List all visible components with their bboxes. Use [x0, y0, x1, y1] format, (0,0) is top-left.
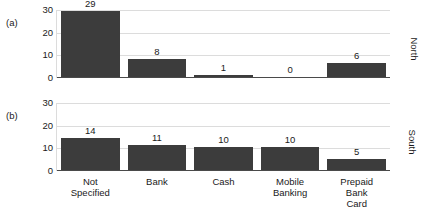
bar-group: 29	[57, 9, 124, 77]
bar-value-label: 5	[323, 147, 390, 157]
region-label-south: South	[408, 130, 418, 155]
x-category-label: NotSpecified	[57, 176, 124, 198]
y-tick-label: 0	[48, 166, 53, 176]
x-category-label-line: Banking	[257, 187, 324, 198]
bar	[61, 138, 120, 170]
bar-value-label: 11	[124, 133, 191, 143]
bar-group: 8	[124, 9, 191, 77]
y-axis-a: 0102030	[22, 10, 56, 78]
panel-tag-b: (b)	[6, 111, 18, 121]
x-category-label-line: Bank	[323, 187, 390, 198]
bar	[194, 147, 253, 170]
bar-group: 11	[124, 102, 191, 170]
x-category-label: Cash	[190, 176, 257, 187]
y-tick-label: 20	[42, 28, 53, 38]
panel-tag-a: (a)	[6, 18, 18, 28]
bar-value-label: 10	[257, 135, 324, 145]
bar-group: 10	[257, 102, 324, 170]
x-category-label-line: Mobile	[257, 176, 324, 187]
plot-area-a: 298106	[57, 10, 390, 78]
bar	[327, 63, 386, 77]
bar-value-label: 29	[57, 0, 124, 9]
bar-value-label: 14	[57, 126, 124, 136]
bar-value-label: 1	[190, 63, 257, 73]
y-tick-label: 0	[48, 73, 53, 83]
x-axis-category-labels: NotSpecifiedBankCashMobileBankingPrepaid…	[57, 176, 390, 211]
x-category-label-line: Not	[57, 176, 124, 187]
bar-value-label: 6	[323, 51, 390, 61]
y-tick-label: 10	[42, 143, 53, 153]
bar-group: 5	[323, 102, 390, 170]
x-category-label-line: Cash	[190, 176, 257, 187]
bar-group: 6	[323, 9, 390, 77]
y-tick-label: 30	[42, 5, 53, 15]
y-tick-label: 30	[42, 98, 53, 108]
x-category-label-line: Specified	[57, 187, 124, 198]
x-category-label: Bank	[124, 176, 191, 187]
panel-north: (a) 0102030 298106 North	[0, 10, 427, 88]
plot-area-b: 141110105	[57, 103, 390, 171]
bar-group: 0	[257, 9, 324, 77]
x-category-label-line: Prepaid	[323, 176, 390, 187]
bar	[194, 75, 253, 77]
x-category-label-line: Card	[323, 198, 390, 209]
x-category-label: PrepaidBankCard	[323, 176, 390, 209]
bar	[327, 159, 386, 170]
bar-value-label: 8	[124, 47, 191, 57]
bar-chart-figure: (a) 0102030 298106 North (b) 0102030 141…	[0, 0, 427, 211]
y-tick-label: 20	[42, 121, 53, 131]
bar-value-label: 10	[190, 135, 257, 145]
x-axis-baseline	[57, 77, 390, 78]
x-axis-baseline	[57, 170, 390, 171]
panel-south: (b) 0102030 141110105 South	[0, 103, 427, 181]
bar	[128, 59, 187, 77]
bar	[128, 145, 187, 170]
x-category-label-line: Bank	[124, 176, 191, 187]
bar	[61, 11, 120, 77]
bar-group: 1	[190, 9, 257, 77]
y-axis-b: 0102030	[22, 103, 56, 171]
region-label-north: North	[408, 37, 418, 60]
y-tick-label: 10	[42, 50, 53, 60]
bar-group: 10	[190, 102, 257, 170]
bar-group: 14	[57, 102, 124, 170]
x-category-label: MobileBanking	[257, 176, 324, 198]
bar	[261, 147, 320, 170]
bar-value-label: 0	[257, 65, 324, 75]
